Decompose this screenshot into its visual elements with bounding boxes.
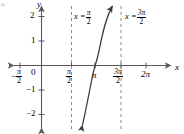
fraction-half-pi-equation: π2 bbox=[86, 9, 92, 25]
y-tick-label-minus-2: −2 bbox=[26, 109, 36, 118]
asymptote-equation-lhs-right: x = bbox=[125, 11, 137, 21]
x-tick-label-two-pi: 2π bbox=[141, 70, 150, 79]
asymptote-label-half-pi: x =π2 bbox=[74, 9, 91, 25]
asymptote-equation-lhs-left: x = bbox=[74, 11, 86, 21]
x-tick-label-three-half-pi: 3π2 bbox=[113, 68, 123, 85]
fraction-three-half-pi: 3π2 bbox=[113, 68, 123, 85]
y-tick-label-1: 1 bbox=[31, 36, 36, 45]
x-tick-label-neg-half-pi: −π2 bbox=[11, 68, 22, 85]
y-axis-label: y bbox=[37, 0, 41, 9]
fraction-half-pi: π2 bbox=[66, 68, 72, 85]
y-tick-label-2: 2 bbox=[30, 11, 35, 20]
x-tick-label-pi: π bbox=[92, 71, 97, 80]
tangent-function-graph-figure: a. y x 2 1 bbox=[0, 0, 184, 134]
x-axis-label: x bbox=[175, 63, 179, 72]
x-tick-label-half-pi: π2 bbox=[66, 68, 72, 85]
y-tick-label-minus-1: −1 bbox=[26, 85, 36, 94]
asymptote-label-three-half-pi: x =3π2 bbox=[125, 9, 146, 25]
origin-label: 0 bbox=[31, 68, 36, 77]
fraction-neg-half-pi: π2 bbox=[16, 68, 22, 85]
fraction-three-half-pi-equation: 3π2 bbox=[137, 9, 147, 25]
